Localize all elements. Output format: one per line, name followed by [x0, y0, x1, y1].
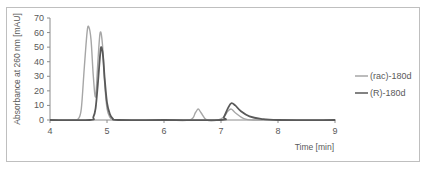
y-tick-label: 50 — [34, 42, 44, 52]
x-axis-title: Time [min] — [295, 142, 334, 152]
y-tick-label: 20 — [34, 86, 44, 96]
series-line-rac — [50, 26, 335, 121]
x-tick-label: 9 — [332, 126, 337, 136]
y-tick-label: 70 — [34, 13, 44, 23]
x-ticks: 456789 — [47, 120, 337, 136]
y-tick-label: 60 — [34, 28, 44, 38]
y-axis-title: Absorbance at 260 nm [mAU] — [12, 13, 22, 125]
x-tick-label: 7 — [218, 126, 223, 136]
y-ticks: 010203040506070 — [34, 13, 50, 125]
x-tick-label: 4 — [47, 126, 52, 136]
x-tick-label: 5 — [104, 126, 109, 136]
chromatogram-chart: 010203040506070 456789 Absorbance at 260… — [0, 0, 427, 170]
legend-label-r: (R)-180d — [370, 88, 406, 98]
y-tick-label: 40 — [34, 57, 44, 67]
series-lines — [50, 26, 335, 121]
x-tick-label: 8 — [275, 126, 280, 136]
y-tick-label: 10 — [34, 100, 44, 110]
y-tick-label: 30 — [34, 71, 44, 81]
y-tick-label: 0 — [39, 115, 44, 125]
legend: (rac)-180d (R)-180d — [355, 71, 412, 98]
x-tick-label: 6 — [161, 126, 166, 136]
legend-label-rac: (rac)-180d — [370, 71, 412, 81]
